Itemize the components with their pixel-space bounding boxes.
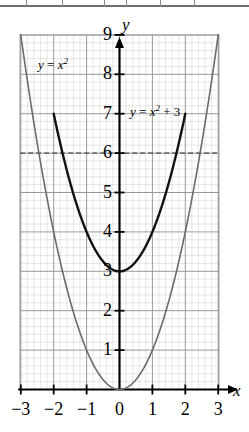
x-tick-label: −1 [75,400,99,418]
y-tick-label: 1 [90,340,112,358]
annotation-y-equals-x-squared-plus-3: y = x2 + 3 [130,104,180,118]
y-tick-label: 7 [90,104,112,122]
y-tick-label: 4 [90,222,112,240]
x-tick-label: 2 [173,400,197,418]
x-tick-label: −3 [9,400,33,418]
parabola-graph: y x 123456789 −3−2−10123 y = x2 y = x2 +… [0,0,249,432]
x-tick-label: 3 [206,400,230,418]
annotation-eq: = [136,104,150,119]
y-tick-label: 5 [90,183,112,201]
x-axis-label: x [233,382,241,399]
x-tick-label: −2 [42,400,66,418]
curve-y-equals-x-squared-plus-3 [54,114,186,272]
y-tick-label: 3 [90,261,112,279]
x-tick-label: 1 [140,400,164,418]
annotation-exponent: 2 [63,56,68,66]
figure-page: y x 123456789 −3−2−10123 y = x2 y = x2 +… [0,0,249,432]
y-tick-label: 2 [90,301,112,319]
annotation-tail: + 3 [160,104,180,119]
y-tick-label: 6 [90,143,112,161]
annotation-y-equals-x-squared: y = x2 [38,57,68,71]
y-tick-label: 8 [90,64,112,82]
curve-y-equals-x-squared [21,35,218,390]
annotation-eq: = [44,57,58,72]
y-tick-label: 9 [90,25,112,43]
x-tick-label: 0 [108,400,132,418]
y-axis-label: y [122,16,130,33]
